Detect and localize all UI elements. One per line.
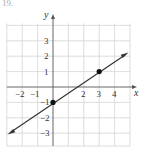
x-tick-label: −2	[15, 89, 25, 99]
x-tick-label: −1	[30, 89, 40, 99]
y-tick-label: −3	[40, 128, 50, 138]
x-tick-label: 4	[112, 89, 117, 99]
y-tick-label: −1	[40, 97, 50, 107]
y-tick-label: −2	[40, 113, 50, 123]
y-tick-label: 2	[44, 51, 49, 61]
y-axis-label: y	[43, 9, 49, 20]
point-0-neg1	[50, 100, 55, 105]
grid	[7, 23, 130, 146]
x-tick-labels: −2 −1 2 3 4	[15, 89, 117, 99]
y-tick-label: 3	[44, 36, 49, 46]
y-tick-label: 1	[44, 67, 49, 77]
coordinate-plane: 19. x y −2 −1 2 3 4 3 2 1 −1	[0, 0, 143, 157]
x-axis	[7, 85, 137, 89]
figure-number: 19.	[2, 0, 13, 8]
x-tick-label: 3	[97, 89, 102, 99]
x-tick-label: 2	[81, 89, 86, 99]
y-axis	[51, 14, 55, 146]
x-axis-label: x	[133, 87, 139, 98]
y-axis-arrow-icon	[51, 14, 55, 19]
point-3-1	[97, 69, 102, 74]
